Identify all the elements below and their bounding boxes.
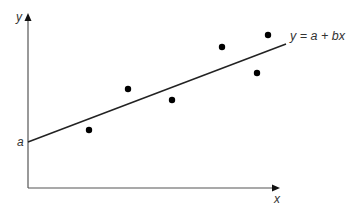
- x-axis-arrow-icon: [272, 185, 280, 192]
- y-axis-label: y: [16, 11, 22, 23]
- data-point: [254, 70, 260, 76]
- data-points: [86, 32, 271, 133]
- data-point: [169, 97, 175, 103]
- x-axis-label: x: [274, 193, 280, 205]
- equation-label: y = a + bx: [290, 30, 345, 43]
- data-point: [86, 127, 92, 133]
- data-point: [219, 44, 225, 50]
- intercept-label: a: [17, 136, 24, 148]
- y-axis-arrow-icon: [25, 13, 32, 21]
- data-point: [265, 32, 271, 38]
- regression-line: [28, 44, 286, 142]
- data-point: [125, 86, 131, 92]
